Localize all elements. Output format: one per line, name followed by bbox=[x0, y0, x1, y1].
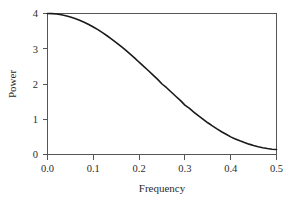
x-axis-title: Frequency bbox=[139, 182, 186, 194]
y-tick-label-4: 4 bbox=[33, 8, 39, 19]
x-tick-label-2: 0.2 bbox=[133, 163, 146, 174]
y-axis-title: Power bbox=[6, 70, 18, 98]
x-tick-label-1: 0.1 bbox=[87, 163, 100, 174]
y-tick-label-2: 2 bbox=[33, 79, 38, 90]
y-tick-label-0: 0 bbox=[33, 149, 38, 160]
y-tick-label-3: 3 bbox=[33, 44, 38, 55]
chart-figure: 0.0 0.1 0.2 0.3 0.4 0.5 0 1 2 3 4 Freque… bbox=[0, 0, 294, 203]
x-tick-label-3: 0.3 bbox=[178, 163, 191, 174]
x-tick-label-4: 0.4 bbox=[224, 163, 238, 174]
x-tick-label-0: 0.0 bbox=[41, 163, 54, 174]
spectral-density-chart: 0.0 0.1 0.2 0.3 0.4 0.5 0 1 2 3 4 Freque… bbox=[0, 0, 294, 203]
x-tick-label-5: 0.5 bbox=[270, 163, 283, 174]
y-tick-label-1: 1 bbox=[33, 114, 38, 125]
